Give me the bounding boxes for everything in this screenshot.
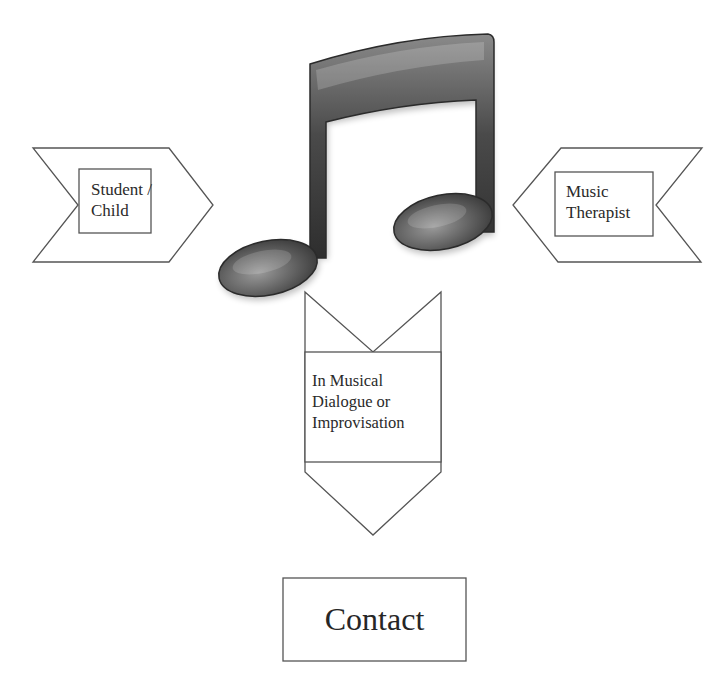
left-node-line-2: Child <box>91 200 152 221</box>
right-node-line-2: Therapist <box>566 202 630 223</box>
right-node-label: Music Therapist <box>566 181 630 223</box>
middle-node-line-3: Improvisation <box>312 412 405 433</box>
left-node-label: Student / Child <box>91 179 152 221</box>
middle-node-line-1: In Musical <box>312 370 405 391</box>
contact-label: Contact <box>283 578 466 661</box>
middle-node-line-2: Dialogue or <box>312 391 405 412</box>
left-node-line-1: Student / <box>91 179 152 200</box>
music-note-icon <box>213 34 499 309</box>
right-node-line-1: Music <box>566 181 630 202</box>
middle-node-label: In Musical Dialogue or Improvisation <box>312 370 405 433</box>
